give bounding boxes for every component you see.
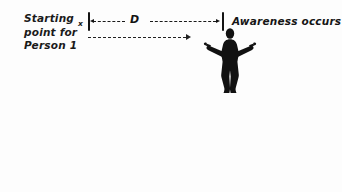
travel-path-line-person-1 — [88, 37, 186, 38]
dimension-line-segment-right-person-1 — [150, 21, 216, 22]
standing-person-arms-out-icon — [196, 26, 264, 94]
dimension-arrowhead-left-icon — [90, 19, 94, 23]
start-point-marker-label-person-1: x — [78, 19, 83, 28]
caption-line: Person 1 — [24, 39, 77, 53]
dimension-label-person-1: D — [130, 13, 139, 26]
caption-person-1: Starting point for Person 1 — [24, 12, 77, 53]
dimension-arrowhead-right-icon — [216, 19, 220, 23]
diagram-canvas: Starting point for Person 1 x D Awarenes… — [0, 0, 342, 192]
travel-path-arrowhead-icon — [186, 34, 191, 40]
caption-line: point for — [24, 26, 77, 40]
diagram-row-person-1: Starting point for Person 1 x D Awarenes… — [0, 0, 342, 96]
dimension-line-segment-left-person-1 — [93, 21, 125, 22]
caption-line: Starting — [24, 12, 77, 26]
diagram-row-person-2: Starting point for Person 2 x d Awarenes… — [0, 96, 342, 192]
